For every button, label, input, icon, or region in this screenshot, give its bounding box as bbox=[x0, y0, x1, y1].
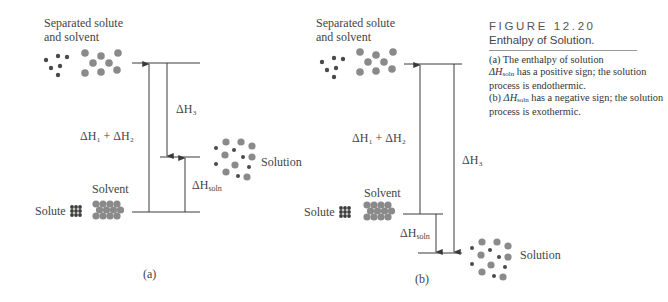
caption-body: (a) The enthalpy of solution ΔHsoln has … bbox=[489, 54, 664, 118]
separated-solvent-icon bbox=[81, 49, 122, 77]
dh3-label: ΔH₃ bbox=[176, 102, 197, 116]
dh12-label: ΔH₁ + ΔH₂ bbox=[80, 129, 134, 143]
caption-a-dh: ΔH bbox=[489, 66, 502, 77]
solute-solid-icon bbox=[70, 205, 82, 217]
caption-b-dh: ΔH bbox=[504, 92, 517, 103]
solution-icon bbox=[470, 238, 512, 280]
dhsoln-label: ΔHsoln bbox=[400, 226, 430, 241]
separated-label-line2: and solvent bbox=[316, 30, 372, 44]
solute-solid-icon bbox=[339, 206, 351, 218]
panel-a: Separated solute and solvent ΔH₁ + ΔH₂ Δ… bbox=[35, 16, 302, 281]
dhsoln-label: ΔHsoln bbox=[192, 178, 222, 193]
dh3-label: ΔH₃ bbox=[462, 153, 483, 167]
solute-label: Solute bbox=[35, 204, 66, 218]
caption-a-sub: soln bbox=[502, 70, 514, 78]
caption-a-prefix: (a) The enthalpy of solution bbox=[489, 54, 604, 65]
dh12-label: ΔH₁ + ΔH₂ bbox=[352, 131, 406, 145]
caption-b-prefix: (b) bbox=[489, 92, 504, 103]
figure-caption: FIGURE 12.20 Enthalpy of Solution. (a) T… bbox=[489, 20, 664, 118]
solution-label: Solution bbox=[520, 248, 561, 262]
solvent-liquid-icon bbox=[92, 200, 124, 219]
separated-solvent-icon bbox=[356, 48, 397, 76]
separated-label-line2: and solvent bbox=[44, 30, 100, 44]
panel-a-label: (a) bbox=[143, 267, 156, 281]
panel-b-label: (b) bbox=[415, 272, 429, 286]
solution-label: Solution bbox=[261, 155, 302, 169]
solute-label: Solute bbox=[304, 205, 335, 219]
figure-number: FIGURE 12.20 bbox=[489, 20, 664, 33]
solution-icon bbox=[214, 138, 256, 180]
separated-solute-icon bbox=[44, 54, 69, 77]
solvent-label: Solvent bbox=[364, 186, 401, 200]
separated-label-line1: Separated solute bbox=[44, 16, 123, 30]
figure-title: Enthalpy of Solution. bbox=[489, 33, 637, 51]
caption-b-sub: soln bbox=[517, 96, 529, 104]
solvent-liquid-icon bbox=[363, 201, 395, 220]
separated-label-line1: Separated solute bbox=[316, 16, 395, 30]
solvent-label: Solvent bbox=[92, 182, 129, 196]
separated-solute-icon bbox=[320, 56, 345, 79]
